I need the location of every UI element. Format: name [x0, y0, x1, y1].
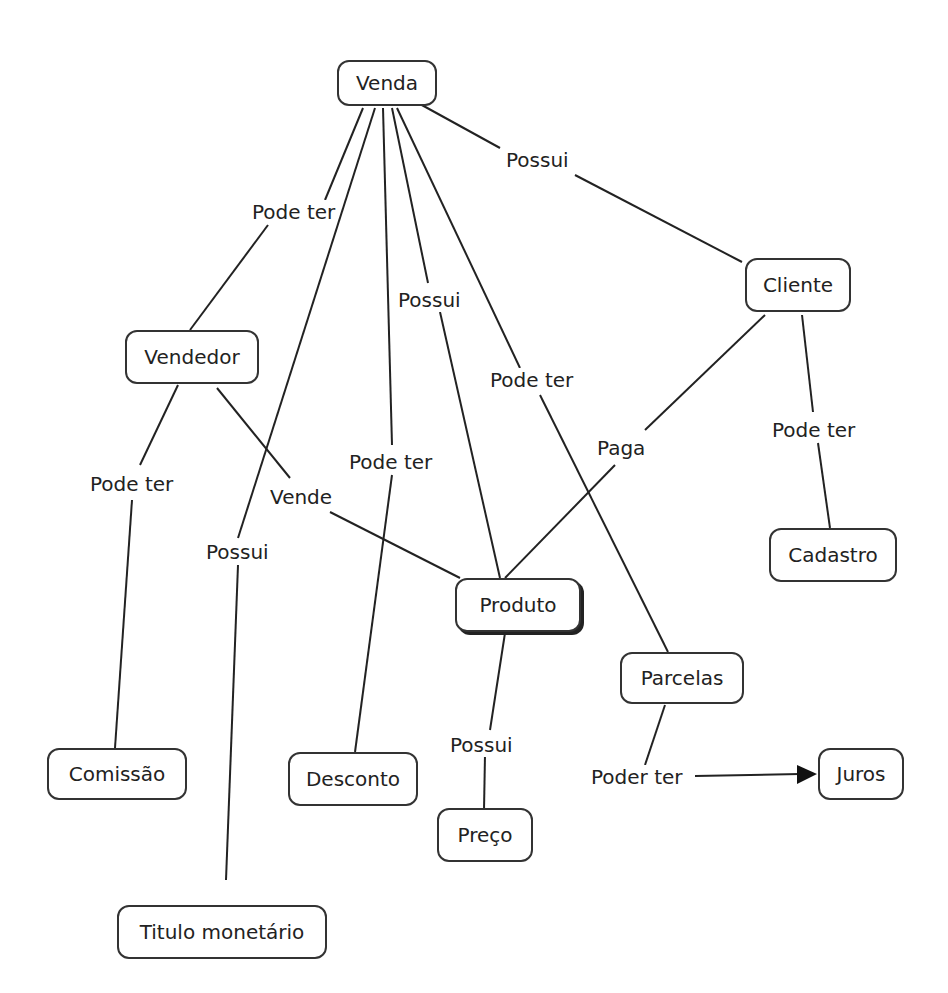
node-label: Vendedor — [144, 345, 239, 369]
link-label-venda-produto: Possui — [396, 288, 463, 312]
node-cliente[interactable]: Cliente — [745, 258, 851, 312]
link-label-produto-preco: Possui — [448, 733, 515, 757]
node-label: Desconto — [306, 767, 400, 791]
node-juros[interactable]: Juros — [818, 748, 904, 800]
node-label: Cliente — [763, 273, 833, 297]
node-label: Parcelas — [641, 666, 724, 690]
node-label: Produto — [479, 593, 556, 617]
node-label: Titulo monetário — [140, 920, 305, 944]
link-label-parcelas-juros: Poder ter — [589, 765, 685, 789]
node-venda[interactable]: Venda — [337, 60, 437, 106]
link-label-cliente-produto: Paga — [595, 436, 647, 460]
link-label-venda-cliente: Possui — [504, 148, 571, 172]
node-label: Comissão — [69, 762, 166, 786]
node-titulo-monetario[interactable]: Titulo monetário — [117, 905, 327, 959]
link-label-venda-vendedor: Pode ter — [250, 200, 337, 224]
node-parcelas[interactable]: Parcelas — [620, 652, 744, 704]
node-cadastro[interactable]: Cadastro — [769, 528, 897, 582]
link-label-venda-parcelas: Pode ter — [488, 368, 575, 392]
arrowhead-icon — [797, 765, 817, 784]
node-desconto[interactable]: Desconto — [288, 752, 418, 806]
link-label-venda-titulo: Possui — [204, 540, 271, 564]
link-label-vendedor-comissao: Pode ter — [88, 472, 175, 496]
node-comissao[interactable]: Comissão — [47, 748, 187, 800]
node-preco[interactable]: Preço — [437, 808, 533, 862]
link-label-cliente-cadastro: Pode ter — [770, 418, 857, 442]
link-label-vendedor-produto: Vende — [268, 485, 334, 509]
node-label: Venda — [356, 71, 418, 95]
node-label: Juros — [836, 762, 885, 786]
node-produto[interactable]: Produto — [455, 578, 581, 632]
link-label-venda-desconto: Pode ter — [347, 450, 434, 474]
node-label: Cadastro — [788, 543, 877, 567]
node-label: Preço — [457, 823, 512, 847]
node-vendedor[interactable]: Vendedor — [125, 330, 259, 384]
